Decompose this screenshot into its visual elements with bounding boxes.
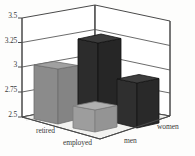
x-category-label-women: women [157,122,179,131]
x-category-label-men: men [124,136,137,145]
bar-employed-face-left [73,106,95,132]
y-tick-label-3: 3 [0,60,17,69]
bar-retired-face-left [34,65,58,124]
y-tick-label-2-5: 2.5 [0,110,17,119]
y-axis [18,18,22,117]
chart-canvas [0,0,195,156]
x-category-label-employed: employed [63,138,92,147]
y-tick-label-2-75: 2.75 [0,85,17,94]
bar-employed[interactable] [73,102,117,133]
bar-women[interactable] [117,75,159,129]
y-tick-label-3-25: 3.25 [0,36,17,45]
bar-women-face-left [117,79,137,128]
bar-retired[interactable] [34,62,78,125]
bar-chart-3d: 3.5 3.25 3 2.75 2.5 retired employed men… [0,0,195,156]
y-tick-label-3-5: 3.5 [0,11,17,20]
x-category-label-retired: retired [36,126,55,135]
